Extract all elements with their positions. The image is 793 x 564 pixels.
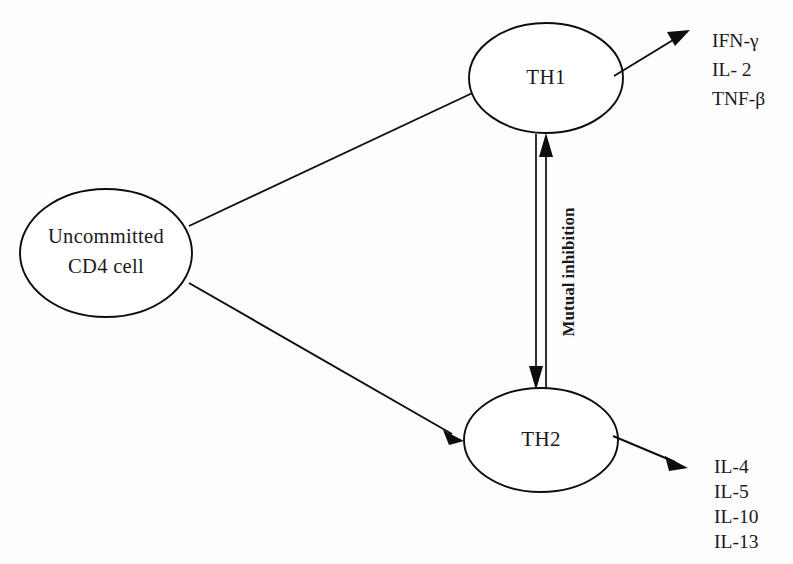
mutual-inhibition-label: Mutual inhibition [559, 207, 578, 337]
edge-cd4-to-th1 [189, 84, 492, 226]
edge-th2-secretion [613, 436, 688, 471]
node-uncommitted-cd4[interactable]: Uncommitted CD4 cell [20, 189, 192, 317]
node-th1-label: TH1 [526, 65, 565, 89]
th1-cytokine-item: TNF-β [712, 88, 765, 109]
mutual-inhibition-down-arrowhead [529, 366, 543, 390]
mutual-inhibition-up-arrowhead [539, 133, 553, 157]
node-th1[interactable]: TH1 [469, 23, 623, 133]
edge-cd4-to-th2-arrowhead [443, 430, 464, 445]
diagram-canvas: Mutual inhibition Uncommitted CD4 cell T… [0, 0, 793, 564]
th2-cytokine-item: IL-13 [714, 531, 758, 552]
th1-cytokine-item: IFN-γ [712, 30, 759, 51]
node-uncommitted-cd4-label-line1: Uncommitted [48, 225, 164, 247]
th2-cytokine-list: IL-4 IL-5 IL-10 IL-13 [714, 456, 758, 552]
th1-cytokine-item: IL- 2 [712, 59, 752, 80]
edge-th1-secretion-arrowhead [667, 30, 690, 46]
edge-th1-secretion [614, 30, 690, 76]
edge-mutual-inhibition: Mutual inhibition [529, 133, 578, 390]
node-uncommitted-cd4-shape[interactable] [20, 189, 192, 317]
edge-th1-secretion-line [614, 37, 678, 76]
th2-cytokine-item: IL-10 [714, 506, 758, 527]
th1-cytokine-list: IFN-γ IL- 2 TNF-β [712, 30, 765, 109]
node-th2-label: TH2 [521, 427, 560, 451]
th2-cytokine-item: IL-5 [714, 481, 749, 502]
node-uncommitted-cd4-label-line2: CD4 cell [68, 255, 144, 277]
th2-cytokine-item: IL-4 [714, 456, 749, 477]
edge-cd4-to-th1-line [189, 89, 481, 226]
diagram-svg: Mutual inhibition Uncommitted CD4 cell T… [0, 0, 793, 564]
edge-cd4-to-th2-line [189, 283, 452, 434]
edge-th2-secretion-arrowhead [665, 456, 688, 471]
node-th2[interactable]: TH2 [464, 388, 618, 492]
edge-cd4-to-th2 [189, 283, 464, 445]
